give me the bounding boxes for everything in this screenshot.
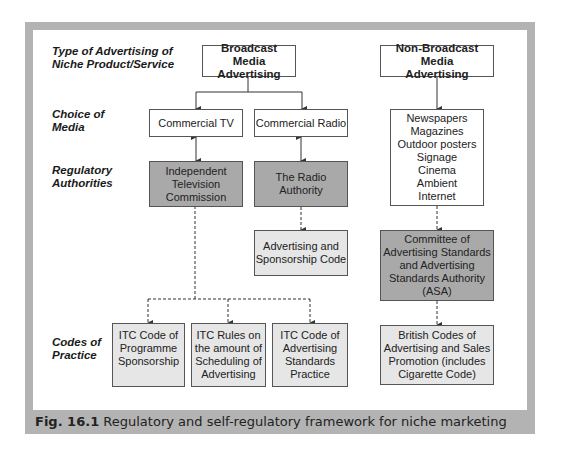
- node-text: Non-Broadcast Media: [381, 42, 493, 68]
- node-text: ITC Rules on: [196, 329, 260, 342]
- row-label-line: Codes of: [52, 336, 101, 349]
- row-label-line: Choice of: [52, 108, 104, 121]
- row-label-regulatory-authorities: Regulatory Authorities: [52, 164, 113, 190]
- row-label-line: Practice: [52, 349, 101, 362]
- row-label-line: Regulatory: [52, 164, 113, 177]
- node-text: Promotion (includes: [388, 355, 485, 368]
- node-text: Practice: [290, 368, 330, 381]
- node-independent-television-commission: Independent Television Commission: [149, 161, 243, 207]
- node-non-broadcast-media-advertising: Non-Broadcast Media Advertising: [380, 45, 494, 77]
- media-item: Outdoor posters: [398, 138, 477, 151]
- node-text: Sponsorship Code: [256, 253, 347, 266]
- node-text: Advertising: [217, 68, 280, 81]
- node-text: Standards Authority: [389, 272, 485, 285]
- node-radio-authority: The Radio Authority: [254, 161, 348, 207]
- node-text: Advertising: [405, 68, 468, 81]
- node-text: Advertising and: [263, 240, 339, 253]
- node-text: Commission: [166, 191, 227, 204]
- media-item: Magazines: [410, 125, 463, 138]
- node-text: Commercial Radio: [256, 117, 346, 130]
- media-item: Signage: [417, 151, 457, 164]
- node-cap-asa: Committee of Advertising Standards and A…: [380, 230, 494, 301]
- node-commercial-radio: Commercial Radio: [254, 109, 348, 137]
- row-label-line: Niche Product/Service: [52, 58, 174, 71]
- row-label-codes-of-practice: Codes of Practice: [52, 336, 101, 362]
- node-text: Standards: [285, 355, 335, 368]
- node-itc-code-advertising-standards: ITC Code of Advertising Standards Practi…: [272, 323, 348, 387]
- node-text: Sponsorship: [118, 355, 179, 368]
- node-text: Authority: [279, 184, 322, 197]
- node-text: Committee of: [404, 233, 469, 246]
- node-non-broadcast-media-list: Newspapers Magazines Outdoor posters Sig…: [390, 109, 484, 206]
- node-text: Scheduling of: [195, 355, 262, 368]
- node-text: Advertising Standards: [383, 246, 491, 259]
- node-commercial-tv: Commercial TV: [149, 109, 243, 137]
- node-text: ITC Code of: [280, 329, 339, 342]
- node-british-codes: British Codes of Advertising and Sales P…: [380, 325, 494, 385]
- node-text: Cigarette Code): [398, 368, 476, 381]
- media-item: Cinema: [418, 164, 456, 177]
- node-broadcast-media-advertising: Broadcast Media Advertising: [202, 45, 296, 77]
- node-advertising-sponsorship-code: Advertising and Sponsorship Code: [254, 230, 348, 276]
- media-item: Newspapers: [406, 112, 467, 125]
- node-text: the amount of: [195, 342, 262, 355]
- media-item: Ambient: [417, 177, 457, 190]
- row-label-choice-of-media: Choice of Media: [52, 108, 104, 134]
- node-text: and Advertising: [399, 259, 474, 272]
- node-text: Commercial TV: [158, 117, 234, 130]
- row-label-line: Type of Advertising of: [52, 45, 174, 58]
- node-text: Television: [172, 178, 220, 191]
- node-text: The Radio: [276, 171, 327, 184]
- node-text: Independent: [165, 165, 226, 178]
- media-item: Internet: [418, 190, 455, 203]
- node-itc-code-programme-sponsorship: ITC Code of Programme Sponsorship: [112, 323, 185, 387]
- node-text: British Codes of: [398, 329, 476, 342]
- node-text: Advertising: [201, 368, 255, 381]
- row-label-line: Authorities: [52, 177, 113, 190]
- node-text: Advertising: [283, 342, 337, 355]
- node-text: Advertising and Sales: [384, 342, 490, 355]
- node-text: Broadcast Media: [203, 42, 295, 68]
- row-label-advertising-type: Type of Advertising of Niche Product/Ser…: [52, 45, 174, 71]
- row-label-line: Media: [52, 121, 104, 134]
- node-text: ITC Code of: [119, 329, 178, 342]
- node-itc-rules-scheduling: ITC Rules on the amount of Scheduling of…: [191, 323, 266, 387]
- node-text: Programme: [120, 342, 177, 355]
- node-text: (ASA): [422, 285, 451, 298]
